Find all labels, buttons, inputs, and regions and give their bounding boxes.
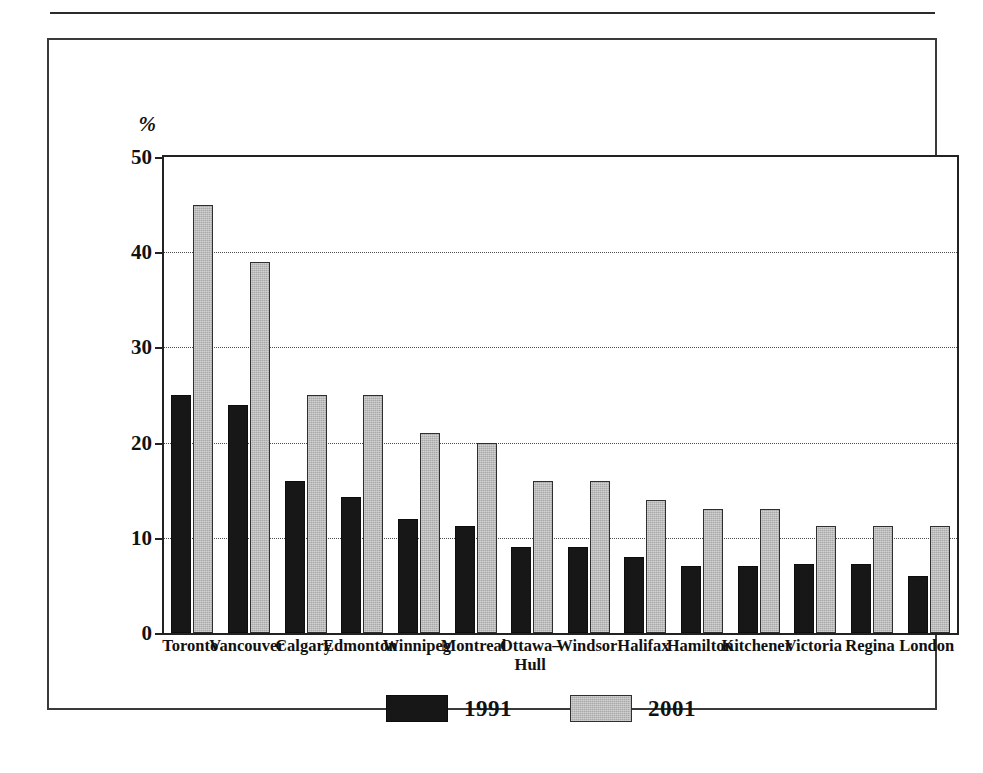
y-tick-30 — [155, 347, 164, 349]
bar-1991-Vancouver — [228, 405, 248, 633]
bar-1991-Halifax — [624, 557, 644, 633]
figure-frame: % 01020304050 TorontoVancouverCalgaryEdm… — [47, 38, 937, 710]
y-tick-20 — [155, 443, 164, 445]
plot-area: 01020304050 — [162, 155, 959, 635]
bar-1991-Montreal — [455, 526, 475, 633]
bar-1991-Winnipeg — [398, 519, 418, 633]
bar-group — [277, 157, 334, 633]
bar-2001-Winnipeg — [420, 433, 440, 633]
legend-label-1991: 1991 — [464, 696, 512, 722]
legend-item-1991: 1991 — [386, 695, 512, 722]
bar-group — [844, 157, 901, 633]
bar-2001-Halifax — [646, 500, 666, 633]
bar-group — [730, 157, 787, 633]
bar-1991-Calgary — [285, 481, 305, 633]
y-tick-50 — [155, 157, 164, 159]
y-tick-label-30: 30 — [131, 337, 152, 358]
bar-2001-Victoria — [816, 526, 836, 633]
x-axis-label-London: London — [886, 636, 967, 655]
bar-2001-Hamilton — [703, 509, 723, 633]
bar-1991-Hamilton — [681, 566, 701, 633]
y-tick-label-20: 20 — [131, 432, 152, 453]
bar-1991-Windsor — [568, 547, 588, 633]
legend-swatch-2001 — [570, 695, 632, 722]
x-axis-labels: TorontoVancouverCalgaryEdmontonWinnipegM… — [162, 636, 955, 696]
bar-group — [561, 157, 618, 633]
bar-2001-London — [930, 526, 950, 633]
bar-2001-Vancouver — [250, 262, 270, 633]
bar-1991-Kitchener — [738, 566, 758, 633]
bar-group — [504, 157, 561, 633]
bar-group — [787, 157, 844, 633]
chart-legend: 19912001 — [96, 695, 983, 722]
bar-1991-Victoria — [794, 564, 814, 633]
bar-2001-Calgary — [307, 395, 327, 633]
bar-group — [391, 157, 448, 633]
bar-group — [617, 157, 674, 633]
top-horizontal-rule — [50, 12, 935, 14]
bar-group — [900, 157, 957, 633]
bar-2001-Montreal — [477, 443, 497, 633]
bar-2001-Toronto — [193, 205, 213, 633]
y-tick-40 — [155, 252, 164, 254]
y-tick-0 — [155, 633, 164, 635]
bar-1991-Ottawa–-Hull — [511, 547, 531, 633]
bar-2001-Edmonton — [363, 395, 383, 633]
bar-group — [221, 157, 278, 633]
bar-group — [447, 157, 504, 633]
legend-label-2001: 2001 — [648, 696, 696, 722]
bar-2001-Kitchener — [760, 509, 780, 633]
y-tick-label-50: 50 — [131, 147, 152, 168]
y-axis-unit-label: % — [139, 112, 157, 137]
x-axis-label-line2: Hull — [490, 655, 571, 674]
bar-group — [164, 157, 221, 633]
bar-2001-Ottawa–-Hull — [533, 481, 553, 633]
bar-1991-London — [908, 576, 928, 633]
y-tick-10 — [155, 538, 164, 540]
y-tick-label-10: 10 — [131, 527, 152, 548]
bar-group — [674, 157, 731, 633]
bar-1991-Edmonton — [341, 497, 361, 633]
bar-2001-Regina — [873, 526, 893, 633]
bar-1991-Regina — [851, 564, 871, 633]
y-tick-label-40: 40 — [131, 242, 152, 263]
bar-group — [334, 157, 391, 633]
bar-1991-Toronto — [171, 395, 191, 633]
bars-layer — [164, 157, 957, 633]
legend-swatch-1991 — [386, 695, 448, 722]
legend-item-2001: 2001 — [570, 695, 696, 722]
bar-2001-Windsor — [590, 481, 610, 633]
